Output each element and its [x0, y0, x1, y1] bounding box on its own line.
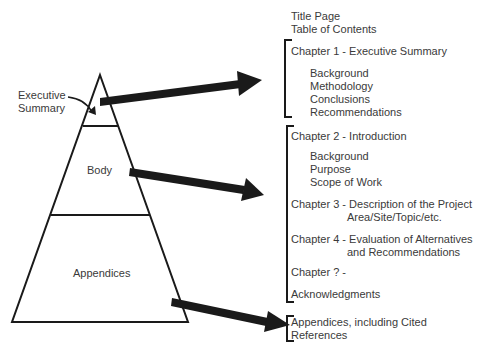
outline-item: Methodology [310, 80, 402, 93]
outline-appendices: Appendices, including Cited References [291, 316, 427, 342]
outline-item: Recommendations [310, 106, 402, 119]
outline-chapter3: Chapter 3 - Description of the Project A… [291, 198, 472, 224]
outline-chapter2-items: Background Purpose Scope of Work [310, 150, 382, 189]
outline-item: Background [310, 150, 382, 163]
outline-item: Purpose [310, 163, 382, 176]
outline-table-of-contents: Table of Contents [291, 23, 377, 36]
outline-chapter4-line1: Chapter 4 - Evaluation of Alternatives [291, 233, 473, 246]
outline-appendices-line1: Appendices, including Cited [291, 316, 427, 329]
label-executive-line2: Summary [18, 102, 66, 115]
arrow-exec-to-chapter1-icon [100, 71, 262, 106]
outline-item: Scope of Work [310, 176, 382, 189]
outline-chapter1-items: Background Methodology Conclusions Recom… [310, 67, 402, 119]
arrow-body-to-chapters-icon [129, 168, 264, 201]
outline-acknowledgments: Acknowledgments [291, 288, 380, 301]
outline-item: Conclusions [310, 93, 402, 106]
outline-chapter4: Chapter 4 - Evaluation of Alternatives a… [291, 233, 473, 259]
outline-chapter3-line1: Chapter 3 - Description of the Project [291, 198, 472, 211]
outline-chapter-n: Chapter ? - [291, 266, 346, 279]
outline-front-matter: Title Page Table of Contents [291, 10, 377, 36]
label-body: Body [87, 164, 112, 177]
label-appendices: Appendices [73, 267, 131, 280]
label-executive-line1: Executive [18, 89, 66, 102]
outline-item: Background [310, 67, 402, 80]
outline-chapter4-line2: and Recommendations [291, 246, 473, 259]
outline-chapter1: Chapter 1 - Executive Summary [291, 45, 447, 58]
outline-appendices-line2: References [291, 329, 427, 342]
outline-title-page: Title Page [291, 10, 377, 23]
arrow-appendices-to-references-icon [171, 298, 290, 332]
outline-chapter2: Chapter 2 - Introduction [291, 130, 407, 143]
label-executive-summary: Executive Summary [18, 89, 66, 115]
outline-chapter3-line2: Area/Site/Topic/etc. [291, 211, 472, 224]
